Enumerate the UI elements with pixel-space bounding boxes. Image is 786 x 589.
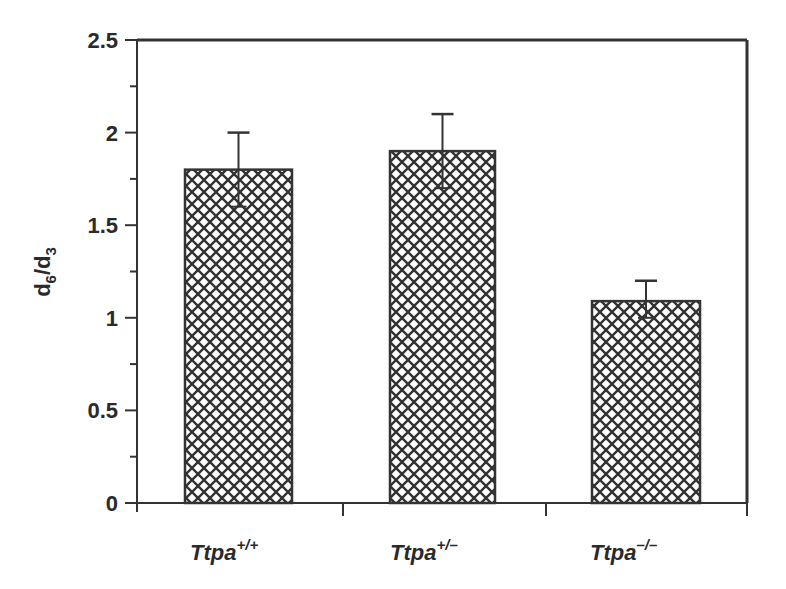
bars [185, 114, 700, 503]
category-labels: Ttpa+/+Ttpa+/–Ttpa–/– [190, 536, 657, 565]
y-axis-title: d6/d3 [30, 247, 59, 297]
y-tick-label: 1.5 [87, 213, 118, 238]
bar-2 [390, 114, 495, 503]
bar-chart: 00.511.522.5 Ttpa+/+Ttpa+/–Ttpa–/– d6/d3 [0, 0, 786, 589]
category-label: Ttpa+/+ [190, 536, 258, 565]
y-tick-label: 0 [106, 491, 118, 516]
y-tick-label: 0.5 [87, 398, 118, 423]
y-tick-label: 2.5 [87, 28, 118, 53]
y-axis-ticks: 00.511.522.5 [87, 28, 137, 516]
category-label: Ttpa+/– [390, 536, 458, 565]
y-tick-label: 2 [106, 121, 118, 146]
bar-1 [185, 133, 292, 503]
x-axis-ticks [343, 503, 747, 516]
y-tick-label: 1 [106, 306, 118, 331]
bar-3 [592, 281, 700, 503]
category-label: Ttpa–/– [590, 536, 657, 565]
